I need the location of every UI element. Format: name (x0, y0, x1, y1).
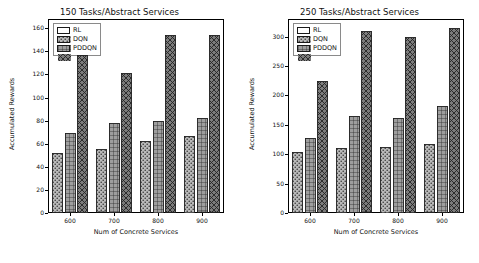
x-tick-mark (202, 213, 203, 216)
x-tick-label: 700 (99, 217, 129, 224)
y-tick-mark (285, 184, 288, 185)
bar-RL-800 (140, 141, 151, 213)
legend-left[interactable]: RLDQNPDDQN (53, 23, 101, 56)
legend-swatch-PDDQN (297, 45, 310, 52)
y-tick-mark (45, 74, 48, 75)
x-tick-label: 700 (339, 217, 369, 224)
legend-label: PDDQN (73, 44, 97, 53)
y-tick-mark (285, 95, 288, 96)
x-tick-label: 900 (427, 217, 457, 224)
legend-item-RL[interactable]: RL (57, 26, 97, 35)
bar-RL-700 (336, 148, 347, 213)
legend-swatch-DQN (297, 36, 310, 43)
y-tick-label: 160 (14, 24, 44, 31)
y-tick-label: 0 (254, 209, 284, 216)
legend-label: PDDQN (313, 44, 337, 53)
y-tick-label: 20 (14, 186, 44, 193)
y-tick-label: 140 (14, 47, 44, 54)
bar-PDDQN-800 (165, 35, 176, 213)
bar-DQN-700 (349, 116, 360, 213)
x-axis-label-right: Num of Concrete Services (288, 228, 464, 236)
bar-PDDQN-700 (361, 31, 372, 213)
x-tick-label: 600 (295, 217, 325, 224)
y-tick-label: 200 (254, 91, 284, 98)
y-tick-mark (285, 37, 288, 38)
bar-DQN-800 (393, 118, 404, 213)
legend-label: DQN (73, 35, 88, 44)
chart-title-right: 250 Tasks/Abstract Services (240, 7, 479, 17)
y-tick-mark (45, 144, 48, 145)
legend-item-PDDQN[interactable]: PDDQN (297, 44, 337, 53)
bar-PDDQN-800 (405, 37, 416, 213)
legend-swatch-RL (57, 27, 70, 34)
bar-PDDQN-900 (209, 35, 220, 213)
legend-label: RL (313, 26, 321, 35)
legend-right[interactable]: RLDQNPDDQN (293, 23, 341, 56)
legend-item-PDDQN[interactable]: PDDQN (57, 44, 97, 53)
bar-RL-900 (184, 136, 195, 213)
bar-RL-800 (380, 147, 391, 213)
y-tick-mark (45, 121, 48, 122)
bar-RL-900 (424, 144, 435, 213)
chart-panel-right: 250 Tasks/Abstract Services Accumulated … (240, 0, 479, 263)
x-tick-label: 800 (383, 217, 413, 224)
x-axis-label-left: Num of Concrete Services (48, 228, 224, 236)
y-tick-mark (285, 213, 288, 214)
x-tick-mark (354, 213, 355, 216)
x-tick-mark (442, 213, 443, 216)
y-tick-label: 0 (14, 209, 44, 216)
x-tick-mark (114, 213, 115, 216)
y-tick-label: 100 (254, 150, 284, 157)
bar-DQN-600 (65, 133, 76, 213)
y-tick-label: 50 (254, 180, 284, 187)
legend-item-DQN[interactable]: DQN (297, 35, 337, 44)
y-tick-label: 300 (254, 33, 284, 40)
bar-DQN-600 (305, 138, 316, 213)
legend-item-DQN[interactable]: DQN (57, 35, 97, 44)
chart-panel-left: 150 Tasks/Abstract Services Accumulated … (0, 0, 239, 263)
bar-PDDQN-900 (449, 28, 460, 213)
legend-label: DQN (313, 35, 328, 44)
x-tick-label: 800 (143, 217, 173, 224)
bar-RL-600 (292, 152, 303, 213)
x-tick-label: 900 (187, 217, 217, 224)
y-tick-label: 250 (254, 62, 284, 69)
figure-root: 150 Tasks/Abstract Services Accumulated … (0, 0, 479, 263)
legend-item-RL[interactable]: RL (297, 26, 337, 35)
legend-swatch-PDDQN (57, 45, 70, 52)
x-tick-mark (70, 213, 71, 216)
bar-DQN-900 (197, 118, 208, 213)
x-tick-mark (310, 213, 311, 216)
y-tick-label: 150 (254, 121, 284, 128)
y-tick-mark (285, 125, 288, 126)
bar-PDDQN-600 (77, 55, 88, 213)
bar-DQN-700 (109, 123, 120, 213)
bar-PDDQN-700 (121, 73, 132, 213)
legend-swatch-DQN (57, 36, 70, 43)
bar-DQN-800 (153, 121, 164, 213)
bar-DQN-900 (437, 106, 448, 213)
y-tick-mark (285, 154, 288, 155)
y-tick-label: 120 (14, 70, 44, 77)
y-tick-mark (45, 28, 48, 29)
y-tick-label: 80 (14, 117, 44, 124)
chart-title-left: 150 Tasks/Abstract Services (0, 7, 239, 17)
y-axis-label-right: Accumulated Rewards (248, 78, 256, 150)
y-tick-label: 100 (14, 94, 44, 101)
bar-RL-600 (52, 153, 63, 213)
legend-swatch-RL (297, 27, 310, 34)
y-tick-mark (45, 98, 48, 99)
y-tick-label: 40 (14, 163, 44, 170)
x-tick-label: 600 (55, 217, 85, 224)
y-tick-mark (45, 167, 48, 168)
x-tick-mark (158, 213, 159, 216)
y-tick-mark (45, 51, 48, 52)
bar-PDDQN-600 (317, 81, 328, 213)
legend-label: RL (73, 26, 81, 35)
y-tick-mark (45, 190, 48, 191)
x-tick-mark (398, 213, 399, 216)
y-tick-mark (45, 213, 48, 214)
y-tick-mark (285, 66, 288, 67)
y-tick-label: 60 (14, 140, 44, 147)
bar-RL-700 (96, 149, 107, 213)
